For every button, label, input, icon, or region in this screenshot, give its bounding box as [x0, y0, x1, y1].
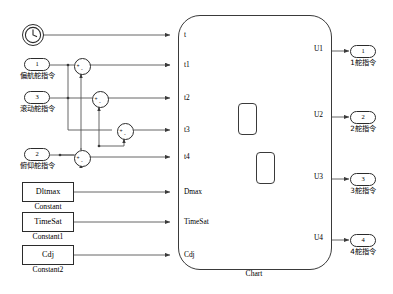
inport-roll-label: 滚动舵指令	[5, 105, 69, 112]
outport-4-label: 4舵指令	[337, 248, 389, 255]
outport-1-number: 1	[361, 48, 364, 55]
stateflow-state-a[interactable]	[238, 103, 257, 135]
sum-4-sign-a: +	[77, 155, 80, 160]
outport-4-number: 4	[361, 237, 364, 244]
outport-4[interactable]: 4	[350, 234, 376, 247]
sum-3-sign-b: -	[124, 132, 126, 137]
outport-2-label: 2舵指令	[337, 125, 389, 132]
chart-input-cdj: Cdj	[184, 251, 195, 258]
constant-dltmax-caption: Constant	[22, 203, 74, 211]
constant-timesat-caption: Constant1	[22, 233, 74, 241]
outport-3-number: 3	[361, 176, 364, 183]
sum-block-2[interactable]: + -	[92, 91, 109, 108]
outport-1[interactable]: 1	[350, 45, 376, 58]
sum-block-3[interactable]: + -	[117, 123, 134, 140]
outport-3-label: 3舵指令	[337, 187, 389, 194]
chart-input-t2: t2	[184, 94, 190, 101]
constant-timesat-value: TimeSat	[34, 218, 61, 226]
sum-1-sign-b: -	[81, 67, 83, 72]
inport-roll-number: 3	[35, 94, 38, 101]
chart-output-u2: U2	[314, 111, 323, 118]
outport-2[interactable]: 2	[350, 111, 376, 124]
outport-1-label: 1舵指令	[337, 59, 389, 66]
sum-1-sign-a: +	[77, 63, 80, 68]
chart-input-t4: t4	[184, 153, 190, 160]
clock-block[interactable]	[22, 24, 44, 46]
clock-icon	[23, 25, 43, 45]
chart-output-u3: U3	[314, 173, 323, 180]
inport-pitch-number: 2	[35, 151, 38, 158]
sum-3-sign-a: +	[120, 128, 123, 133]
inport-pitch-label: 俯仰舵指令	[5, 162, 69, 169]
chart-input-timesat: TimeSat	[184, 218, 209, 225]
inport-yaw-number: 1	[35, 61, 38, 68]
outport-3[interactable]: 3	[350, 173, 376, 186]
simulink-canvas[interactable]: 1 偏航舵指令 3 滚动舵指令 2 俯仰舵指令 + - + - + - + - …	[0, 0, 393, 294]
inport-roll[interactable]: 3	[24, 91, 50, 104]
constant-block-cdj[interactable]: Cdj	[22, 245, 74, 265]
sum-4-sign-b: -	[81, 159, 83, 164]
chart-caption: Chart	[240, 270, 268, 278]
outport-2-number: 2	[361, 114, 364, 121]
sum-block-1[interactable]: + -	[74, 58, 91, 75]
inport-yaw-label: 偏航舵指令	[5, 72, 69, 79]
constant-block-dltmax[interactable]: Dltmax	[22, 182, 74, 202]
chart-input-dmax: Dmax	[184, 188, 202, 195]
chart-subsystem-block[interactable]	[178, 15, 332, 270]
chart-input-t1: t1	[184, 61, 190, 68]
constant-cdj-value: Cdj	[42, 251, 54, 259]
constant-block-timesat[interactable]: TimeSat	[22, 212, 74, 232]
chart-input-t3: t3	[184, 126, 190, 133]
inport-pitch[interactable]: 2	[24, 148, 50, 161]
chart-output-u4: U4	[314, 234, 323, 241]
inport-yaw[interactable]: 1	[24, 58, 50, 71]
chart-output-u1: U1	[314, 45, 323, 52]
constant-dltmax-value: Dltmax	[36, 188, 61, 196]
sum-2-sign-b: -	[99, 100, 101, 105]
stateflow-state-b[interactable]	[256, 152, 275, 184]
sum-2-sign-a: +	[95, 96, 98, 101]
constant-cdj-caption: Constant2	[22, 266, 74, 274]
sum-block-4[interactable]: + -	[74, 150, 91, 167]
chart-input-t: t	[184, 31, 186, 38]
